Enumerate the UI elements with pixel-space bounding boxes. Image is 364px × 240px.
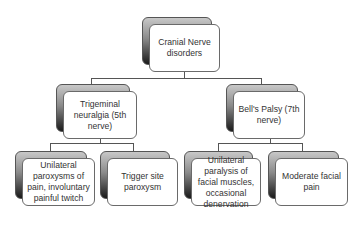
connector-to-leaf1	[50, 143, 51, 151]
leaf-node-facial-paralysis-box: Unilateral paralysis of facial muscles, …	[191, 158, 261, 206]
root-node-label: Cranial Nerve disorders	[152, 37, 217, 59]
branch-node-bells-palsy-label: Bell's Palsy (7th nerve)	[236, 104, 302, 126]
branch-node-bells-palsy-box: Bell's Palsy (7th nerve)	[233, 91, 305, 139]
leaf-node-facial-paralysis-label: Unilateral paralysis of facial muscles, …	[194, 155, 258, 210]
root-node-box: Cranial Nerve disorders	[149, 24, 220, 72]
leaf-node-trigger-site-label: Trigger site paroxysm	[110, 171, 175, 193]
connector-trigeminal-horizontal	[50, 143, 134, 144]
leaf-node-paroxysms-box: Unilateral paroxysms of pain, involuntar…	[22, 158, 95, 206]
leaf-node-facial-pain-label: Moderate facial pain	[278, 171, 345, 193]
connector-to-leaf3	[218, 143, 219, 151]
branch-node-trigeminal-label: Trigeminal neuralgia (5th nerve)	[66, 99, 134, 132]
connector-level1-horizontal	[91, 78, 262, 79]
leaf-node-facial-pain-box: Moderate facial pain	[275, 158, 348, 206]
connector-to-leaf4	[302, 143, 303, 151]
connector-to-leaf2	[133, 143, 134, 151]
leaf-node-trigger-site-box: Trigger site paroxysm	[107, 158, 178, 206]
leaf-node-paroxysms-label: Unilateral paroxysms of pain, involuntar…	[25, 160, 92, 204]
connector-bells-horizontal	[218, 143, 303, 144]
branch-node-trigeminal-box: Trigeminal neuralgia (5th nerve)	[63, 91, 137, 139]
